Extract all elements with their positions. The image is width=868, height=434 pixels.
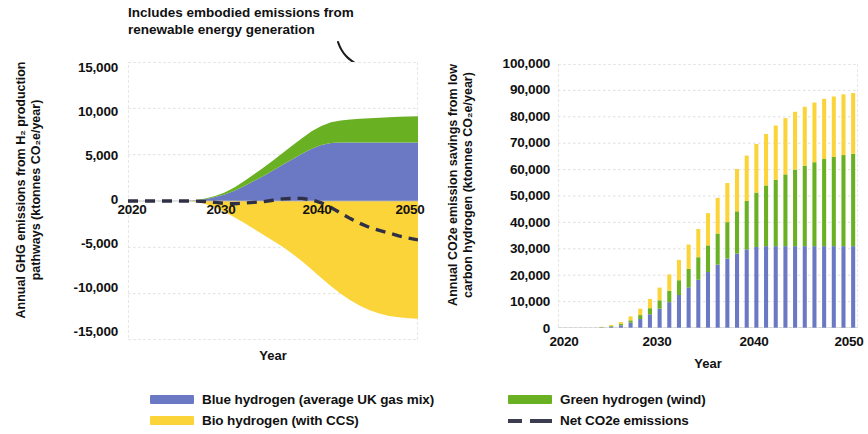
- right-chart-xtick-2020: 2020: [536, 334, 592, 349]
- legend-label-blue-hydrogen: Blue hydrogen (average UK gas mix): [202, 392, 434, 407]
- right-chart-xtick-2050: 2050: [821, 334, 868, 349]
- left-chart-xtick-2040: 2040: [289, 202, 345, 217]
- left-chart-panel: Annual GHG emissions from H₂ production …: [0, 0, 430, 390]
- legend-item-blue-hydrogen[interactable]: Blue hydrogen (average UK gas mix): [150, 392, 434, 407]
- legend-swatch-green-hydrogen: [508, 395, 552, 404]
- right-chart-ytick-40000: 40,000: [464, 215, 550, 230]
- right-chart-ytick-90000: 90,000: [464, 82, 550, 97]
- legend-item-bio-hydrogen[interactable]: Bio hydrogen (with CCS): [150, 413, 359, 428]
- right-chart-xtick-2040: 2040: [726, 334, 782, 349]
- legend-item-net-emissions[interactable]: Net CO2e emissions: [508, 413, 689, 428]
- legend-swatch-blue-hydrogen: [150, 395, 194, 404]
- figure-container: Includes embodied emissions from renewab…: [0, 0, 868, 434]
- left-chart-ytick-5000: 5,000: [40, 148, 118, 163]
- left-chart-y-axis-label-line-1: Annual GHG emissions from H₂ production: [14, 25, 29, 355]
- left-chart-ytick-15000: 15,000: [40, 60, 118, 75]
- left-chart-ytick-neg10000: -10,000: [40, 280, 118, 295]
- legend-dash-net-emissions: [508, 416, 552, 425]
- legend-label-net-emissions: Net CO2e emissions: [560, 413, 689, 428]
- left-chart-ytick-neg15000: -15,000: [40, 324, 118, 339]
- right-chart-ytick-10000: 10,000: [464, 294, 550, 309]
- left-chart-ytick-10000: 10,000: [40, 104, 118, 119]
- right-chart-ytick-60000: 60,000: [464, 162, 550, 177]
- legend-label-green-hydrogen: Green hydrogen (wind): [560, 392, 706, 407]
- legend-item-green-hydrogen[interactable]: Green hydrogen (wind): [508, 392, 706, 407]
- left-chart-ytick-neg5000: -5,000: [40, 236, 118, 251]
- right-chart-ytick-30000: 30,000: [464, 241, 550, 256]
- left-chart-x-axis-title: Year: [128, 348, 418, 363]
- right-chart-x-axis-title: Year: [558, 356, 858, 371]
- right-chart-plot-area: [558, 64, 858, 328]
- right-chart-ytick-50000: 50,000: [464, 188, 550, 203]
- left-chart-xtick-2030: 2030: [193, 202, 249, 217]
- right-chart-y-axis-label-line-1: Annual CO2e emission savings from low: [446, 20, 461, 350]
- right-chart-ytick-80000: 80,000: [464, 109, 550, 124]
- legend-swatch-bio-hydrogen: [150, 416, 194, 425]
- left-chart-plot-area: [128, 62, 418, 340]
- right-chart-panel: Annual CO2e emission savings from low ca…: [430, 0, 868, 390]
- right-chart-ytick-70000: 70,000: [464, 135, 550, 150]
- right-chart-ytick-20000: 20,000: [464, 268, 550, 283]
- right-chart-ytick-100000: 100,000: [464, 56, 550, 71]
- left-chart-xtick-2020: 2020: [104, 202, 160, 217]
- chart-legend: Blue hydrogen (average UK gas mix) Bio h…: [150, 392, 810, 434]
- right-chart-xtick-2030: 2030: [629, 334, 685, 349]
- legend-label-bio-hydrogen: Bio hydrogen (with CCS): [202, 413, 359, 428]
